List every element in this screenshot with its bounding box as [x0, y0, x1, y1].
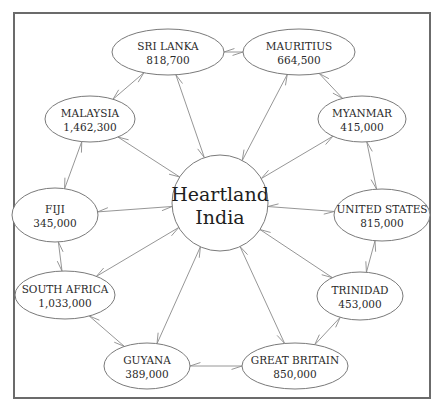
node-ellipse: [243, 29, 355, 75]
edge-center-mauritius: [242, 74, 287, 160]
arrowhead-icon: [333, 93, 343, 98]
node-population: 818,700: [146, 54, 189, 66]
node-population: 815,000: [360, 217, 403, 229]
arrowhead-icon: [198, 149, 205, 158]
node-population: 1,033,000: [38, 297, 91, 309]
arrowhead-icon: [277, 335, 285, 343]
node-name: GREAT BRITAIN: [251, 354, 339, 366]
arrowhead-icon: [233, 52, 243, 55]
arrowhead-icon: [324, 211, 335, 214]
edge-center-myanmar: [261, 136, 333, 178]
node-ellipse: [242, 343, 348, 389]
node-name: SOUTH AFRICA: [22, 283, 109, 295]
node-name: SRI LANKA: [137, 40, 199, 52]
diaspora-diagram: SRI LANKA818,700MAURITIUS664,500MALAYSIA…: [0, 0, 443, 409]
edge-center-united-states: [268, 207, 335, 212]
node-great-britain: GREAT BRITAIN850,000: [242, 343, 348, 389]
arrowhead-icon: [315, 335, 320, 345]
edge-mauritius-myanmar: [319, 73, 342, 98]
center-label-line2: India: [195, 206, 244, 228]
node-ellipse: [334, 189, 430, 241]
arrowhead-icon: [319, 73, 329, 78]
node-population: 453,000: [338, 298, 381, 310]
node-malaysia: MALAYSIA1,462,300: [45, 96, 135, 142]
arrowhead-icon: [268, 204, 279, 207]
edge-center-sri-lanka: [176, 75, 205, 158]
edge-myanmar-united-states: [367, 142, 377, 189]
arrowhead-icon: [114, 342, 124, 346]
arrowhead-icon: [336, 317, 341, 327]
node-name: GUYANA: [123, 354, 171, 366]
node-ellipse: [112, 29, 224, 75]
center-node-heartland-india: Heartland India: [171, 155, 269, 251]
edge-malaysia-sri-lanka: [113, 73, 144, 99]
node-population: 1,462,300: [63, 121, 116, 133]
edge-center-fiji: [98, 206, 172, 211]
arrowhead-icon: [224, 49, 234, 52]
arrowhead-icon: [366, 261, 367, 272]
edge-center-trinidad: [260, 230, 332, 278]
node-trinidad: TRINIDAD453,000: [317, 272, 403, 320]
center-label-line1: Heartland: [171, 183, 269, 205]
node-ellipse: [318, 96, 406, 142]
node-population: 664,500: [277, 54, 320, 66]
node-ellipse: [104, 343, 190, 389]
node-sri-lanka: SRI LANKA818,700: [112, 29, 224, 75]
node-ellipse: [15, 271, 115, 319]
arrowhead-icon: [375, 241, 376, 252]
arrowhead-icon: [176, 75, 183, 84]
node-ellipse: [317, 272, 403, 320]
node-name: TRINIDAD: [332, 284, 389, 296]
edge-trinidad-great-britain: [315, 317, 340, 344]
arrowhead-icon: [190, 363, 200, 366]
node-population: 415,000: [340, 121, 383, 133]
node-name: MYANMAR: [332, 107, 393, 119]
node-name: MALAYSIA: [61, 107, 120, 119]
node-mauritius: MAURITIUS664,500: [243, 29, 355, 75]
node-name: MAURITIUS: [266, 40, 332, 52]
node-ellipse: [45, 96, 135, 142]
node-population: 850,000: [273, 368, 316, 380]
edge-guyana-south-africa: [89, 316, 124, 346]
edge-fiji-malaysia: [65, 142, 82, 189]
node-united-states: UNITED STATES815,000: [334, 189, 430, 241]
arrowhead-icon: [89, 316, 99, 320]
edge-united-states-trinidad: [366, 241, 375, 273]
node-guyana: GUYANA389,000: [104, 343, 190, 389]
node-name: UNITED STATES: [336, 203, 427, 215]
arrowhead-icon: [232, 366, 242, 369]
node-myanmar: MYANMAR415,000: [318, 96, 406, 142]
arrowhead-icon: [240, 247, 248, 255]
edge-center-great-britain: [240, 247, 285, 344]
edge-center-malaysia: [118, 137, 180, 177]
node-population: 345,000: [33, 217, 76, 229]
edge-center-south-africa: [96, 227, 178, 276]
node-ellipse: [12, 188, 98, 242]
node-name: FIJI: [45, 203, 65, 215]
node-south-africa: SOUTH AFRICA1,033,000: [15, 271, 115, 319]
node-fiji: FIJI345,000: [12, 188, 98, 242]
edge-center-guyana: [157, 247, 200, 344]
node-population: 389,000: [125, 368, 168, 380]
